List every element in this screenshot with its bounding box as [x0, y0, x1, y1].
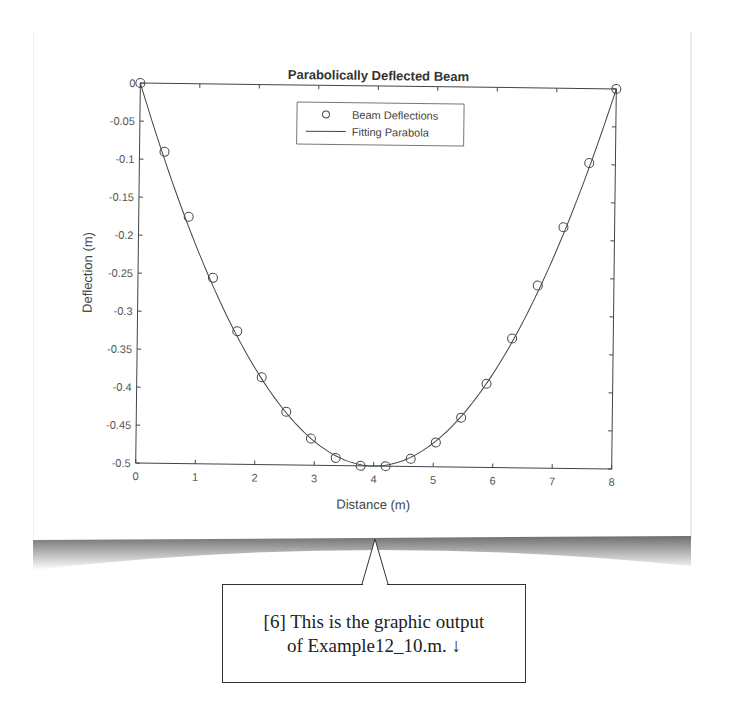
x-tick-label: 1: [192, 471, 198, 483]
x-tick-label: 8: [608, 476, 614, 488]
x-tick-label: 6: [489, 474, 495, 486]
x-tick-label: 3: [311, 472, 317, 484]
x-tick-label: 7: [549, 475, 555, 487]
legend: Beam Deflections Fitting Parabola: [297, 102, 465, 146]
caption-callout: [6] This is the graphic output of Exampl…: [222, 584, 526, 683]
y-tick-label: -0.1: [115, 153, 134, 165]
x-axis-label: Distance (m): [336, 497, 410, 513]
chart-title: Parabolically Deflected Beam: [288, 67, 470, 84]
y-tick-label: -0.4: [113, 381, 132, 393]
legend-label-fitting-parabola: Fitting Parabola: [352, 126, 430, 139]
data-point-marker: [431, 438, 440, 447]
x-tick-label: 4: [370, 473, 376, 485]
callout-pointer: [362, 539, 388, 584]
y-tick-label: 0: [129, 77, 135, 89]
y-tick-label: -0.5: [112, 457, 131, 469]
y-tick-label: -0.35: [107, 343, 132, 355]
y-tick-label: -0.15: [109, 191, 134, 203]
x-tick-label: 5: [430, 474, 436, 486]
x-tick-label: 0: [132, 470, 138, 482]
callout-line-1: [6] This is the graphic output: [223, 610, 525, 634]
data-point-marker: [257, 373, 266, 382]
data-point-marker: [457, 413, 466, 422]
y-axis-label: Deflection (m): [80, 232, 96, 313]
data-point-marker: [282, 407, 291, 416]
y-tick-label: -0.45: [106, 419, 131, 431]
y-tick-label: -0.25: [108, 267, 133, 279]
data-point-marker: [160, 147, 169, 156]
y-tick-label: -0.3: [114, 305, 133, 317]
x-tick-label: 2: [251, 471, 257, 483]
legend-label-beam-deflections: Beam Deflections: [352, 109, 439, 122]
y-tick-label: -0.05: [110, 115, 135, 127]
callout-line-2: of Example12_10.m. ↓: [223, 634, 525, 658]
data-point-marker: [184, 212, 193, 221]
y-tick-label: -0.2: [114, 229, 133, 241]
